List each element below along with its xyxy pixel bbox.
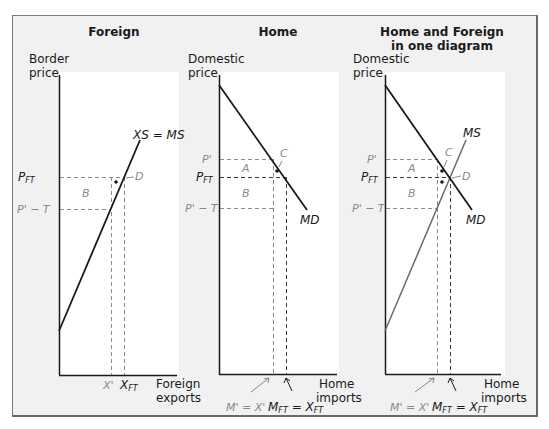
home-point-c: C (280, 147, 288, 160)
home-y-label-2: price (188, 66, 218, 80)
foreign-x-label-2: exports (156, 391, 201, 405)
combined-pprime-t-label: P' − T (352, 202, 386, 215)
home-pprime-label: P' (202, 153, 212, 166)
combined-x-label-2: imports (481, 391, 527, 405)
home-area-b: B (242, 187, 250, 200)
combined-y-label-1: Domestic (353, 52, 410, 66)
home-point-dot (275, 169, 279, 173)
combined-point-d-dot (440, 180, 444, 184)
foreign-point-dot (114, 180, 118, 184)
home-x-label-1: Home (319, 377, 354, 391)
home-x-label-2: imports (316, 391, 362, 405)
combined-point-c-dot (440, 169, 444, 173)
foreign-xprime-label: X' (102, 379, 114, 392)
home-y-label-1: Domestic (188, 52, 245, 66)
home-plot-area (219, 72, 339, 375)
home-pft-label: PFT (196, 170, 214, 185)
combined-y-label-2: price (353, 66, 383, 80)
combined-title-1: Home and Foreign (380, 25, 504, 39)
combined-plot-area (385, 72, 505, 375)
foreign-x-label-1: Foreign (156, 377, 200, 391)
combined-pft-label: PFT (361, 170, 379, 185)
combined-area-b: B (408, 187, 416, 200)
foreign-area-b: B (82, 187, 90, 200)
foreign-y-label-1: Border (29, 52, 69, 66)
combined-mprime-label: M' = X' (390, 401, 429, 414)
foreign-pft-label: PFT (18, 170, 36, 185)
foreign-point-d: D (135, 170, 143, 183)
foreign-plot-area (59, 72, 179, 375)
combined-area-a: A (407, 162, 416, 175)
foreign-y-label-2: price (29, 66, 59, 80)
combined-x-label-1: Home (484, 377, 519, 391)
foreign-supply-label: XS = MS (132, 128, 185, 142)
combined-pprime-label: P' (367, 153, 377, 166)
home-demand-label: MD (300, 213, 320, 227)
foreign-pprime-t-label: P' − T (17, 203, 51, 216)
home-mprime-arrow (251, 378, 269, 392)
combined-point-d: D (462, 170, 470, 183)
home-area-a: A (241, 162, 250, 175)
combined-demand-label: MD (466, 213, 486, 227)
foreign-xft-label: XFT (119, 378, 139, 393)
combined-mprime-arrow (415, 378, 434, 392)
combined-supply-label: MS (463, 126, 481, 140)
combined-title-2: in one diagram (391, 39, 493, 53)
combined-point-c: C (445, 146, 453, 159)
home-title: Home (259, 25, 298, 39)
diagram-canvas: Foreign Border price XS = MS PFT P' − T … (0, 0, 549, 429)
foreign-title: Foreign (88, 25, 139, 39)
home-mprime-label: M' = X' (226, 401, 265, 414)
home-pprime-t-label: P' − T (185, 202, 219, 215)
combined-mft-label: MFT = XFT (432, 400, 488, 415)
